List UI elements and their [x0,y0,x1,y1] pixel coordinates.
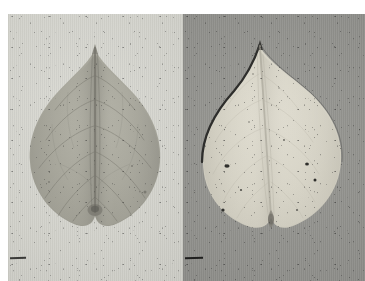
photographic-plate [8,14,365,281]
leaf-right-illustration [183,14,365,281]
panel-right [183,14,365,281]
panel-left [8,14,183,281]
figure-root [0,0,365,281]
leaf-left-illustration [8,14,183,281]
leaf-left-sinus [88,204,103,216]
header-caption [222,0,362,12]
